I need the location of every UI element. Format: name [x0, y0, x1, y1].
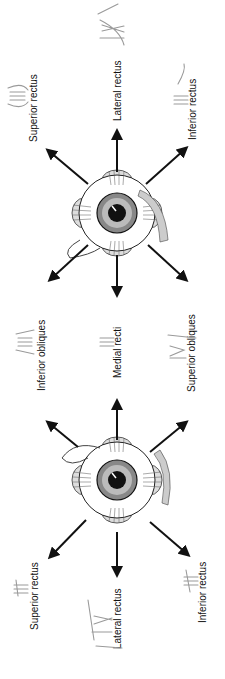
label-superior-obliques: Superior obliques	[186, 314, 197, 392]
handwritten-nerve-III-top-inferior	[174, 64, 188, 104]
handwritten-nerve-VI-top-lateral	[98, 4, 124, 45]
label-lateral-rectus-bottom: Lateral rectus	[112, 588, 123, 649]
top-eyeball-illustration	[68, 170, 168, 258]
handwritten-nerve-III-bottom-superior	[14, 580, 28, 596]
label-lateral-rectus-top: Lateral rectus	[112, 60, 123, 121]
label-inferior-rectus-top: Inferior rectus	[187, 79, 198, 140]
eye-muscles-diagram: Superior rectus Lateral rectus Inferior …	[0, 0, 225, 679]
handwritten-nerve-III-inferior-obliques	[16, 330, 34, 354]
label-inferior-rectus-bottom: Inferior rectus	[197, 562, 208, 623]
handwritten-nerve-III-bottom-inferior	[184, 570, 198, 592]
label-superior-rectus-top: Superior rectus	[28, 74, 39, 142]
handwritten-nerve-III-top-superior	[8, 85, 28, 106]
label-medial-recti: Medial recti	[112, 327, 123, 378]
label-superior-rectus-bottom: Superior rectus	[29, 562, 40, 630]
label-inferior-obliques: Inferior obliques	[36, 320, 47, 391]
